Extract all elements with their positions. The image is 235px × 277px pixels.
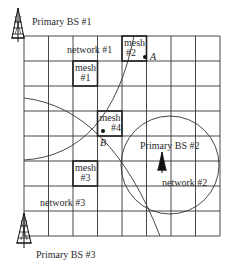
mesh-2-line2: #2 (122, 48, 147, 58)
mesh-2-label: mesh #2 (122, 38, 147, 58)
primary-bs-1-label: Primary BS #1 (32, 17, 91, 27)
network-diagram (0, 0, 235, 277)
point-a-label: A (150, 52, 156, 62)
network-2-coverage-circle (121, 116, 219, 214)
network-2-label: network #2 (162, 178, 207, 188)
tower-icon-bs3 (16, 213, 32, 248)
point-b-label: B (100, 138, 106, 148)
mesh-1-line2: #1 (73, 73, 98, 83)
mesh-1-label: mesh #1 (73, 63, 98, 83)
network-3-label: network #3 (40, 198, 85, 208)
network-1-label: network #1 (67, 45, 112, 55)
tower-icon-bs2 (157, 152, 167, 173)
mesh-4-line2: #4 (97, 123, 123, 133)
primary-bs-2-label: Primary BS #2 (140, 141, 199, 151)
tower-icon-bs1 (11, 8, 25, 42)
primary-bs-3-label: Primary BS #3 (36, 250, 95, 260)
mesh-3-label: mesh #3 (73, 163, 98, 183)
mesh-4-label: mesh #4 (97, 113, 123, 133)
mesh-3-line2: #3 (73, 173, 98, 183)
